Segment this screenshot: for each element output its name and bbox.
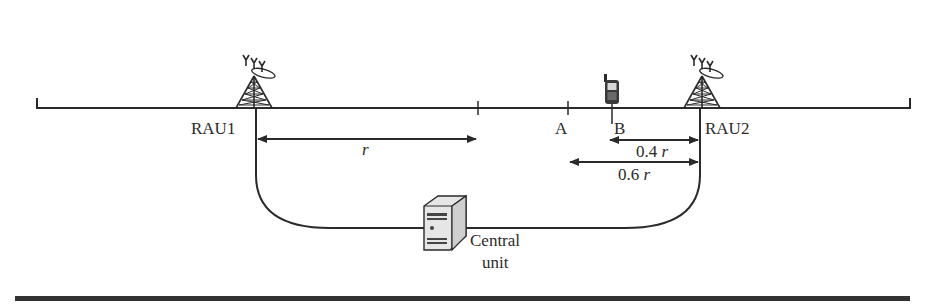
antenna-tower-icon xyxy=(684,55,724,108)
diagram-canvas xyxy=(0,0,947,306)
distance-value: 0.4 xyxy=(636,142,657,161)
mobile-phone-icon xyxy=(604,74,619,104)
coverage-line xyxy=(37,98,910,108)
rau2-label: RAU2 xyxy=(705,120,749,137)
antenna-tower-icon xyxy=(236,55,276,108)
distance-r-label: r xyxy=(362,141,369,158)
rau1-label: RAU1 xyxy=(191,120,235,137)
distance-unit: r xyxy=(644,165,651,184)
bottom-rule xyxy=(15,296,910,301)
point-b-label: B xyxy=(614,120,625,137)
server-icon xyxy=(424,196,466,250)
distance-value: 0.6 xyxy=(618,165,639,184)
distance-unit: r xyxy=(662,142,669,161)
central-unit-label-line2: unit xyxy=(482,254,508,271)
central-unit-label-line1: Central xyxy=(470,232,520,249)
point-a-label: A xyxy=(555,120,567,137)
distance-0.4r-label: 0.4 r xyxy=(636,143,668,160)
distance-0.6r-label: 0.6 r xyxy=(618,166,650,183)
